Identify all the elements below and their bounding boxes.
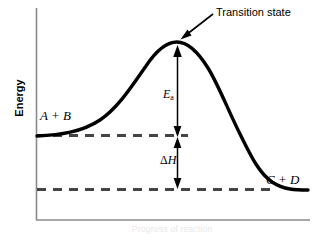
enthalpy-change-label: ΔH (160, 153, 176, 168)
activation-energy-arrow (173, 45, 182, 137)
activation-energy-label: Ea (163, 87, 174, 102)
reaction-energy-diagram: Energy Progress of reaction Transition s… (0, 0, 317, 234)
transition-state-label: Transition state (216, 6, 291, 18)
x-axis-label: Progress of reaction (36, 224, 308, 234)
activation-energy-subscript: a (170, 93, 174, 102)
enthalpy-symbol: H (168, 153, 177, 167)
delta-symbol: Δ (160, 153, 168, 167)
y-axis-label: Energy (13, 63, 25, 133)
reactants-label: A + B (40, 108, 71, 124)
transition-state-leader-arrow (181, 14, 214, 40)
products-label: C + D (266, 172, 299, 188)
